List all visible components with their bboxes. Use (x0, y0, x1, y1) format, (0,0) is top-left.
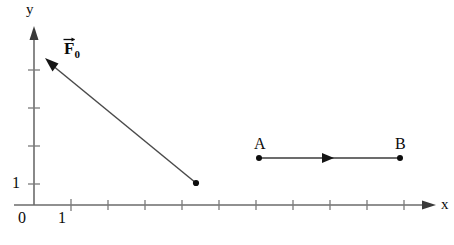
y-axis-label: y (26, 2, 34, 17)
origin-label: 0 (18, 210, 26, 226)
y-axis-arrowhead-icon (30, 26, 39, 40)
y-axis-group (28, 26, 40, 205)
point-b-dot (397, 155, 403, 161)
point-a-dot (256, 155, 262, 161)
force-vector-origin-dot (193, 180, 199, 186)
force-vector-group (45, 58, 199, 186)
force-symbol-with-bar: F (64, 40, 74, 57)
x-axis-group (14, 199, 436, 211)
force-vector-label: F0 (64, 40, 80, 57)
point-a-label: A (254, 136, 266, 152)
diagram-canvas (0, 0, 454, 245)
physics-vector-diagram: y x 0 1 1 A B F0 (0, 0, 454, 245)
y-axis-tick-label-one: 1 (12, 175, 20, 191)
force-symbol-subscript: 0 (74, 48, 80, 60)
x-axis-arrowhead-icon (422, 201, 436, 210)
displacement-arrowhead-icon (322, 153, 334, 163)
x-axis-label: x (441, 197, 449, 212)
displacement-group (256, 153, 403, 163)
point-b-label: B (395, 136, 406, 152)
force-symbol-base: F (64, 39, 74, 58)
force-vector-shaft (52, 65, 196, 183)
x-axis-tick-label-one: 1 (58, 210, 66, 226)
